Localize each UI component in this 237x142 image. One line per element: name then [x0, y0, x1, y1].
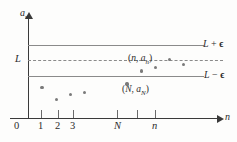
x-tick-label-N: N: [114, 121, 121, 132]
data-point: [140, 69, 143, 72]
lower-epsilon-label: L − ϵ: [204, 70, 224, 80]
y-axis-label: an: [20, 8, 29, 21]
x-tick-label-1: 1: [38, 121, 43, 132]
x-tick-mid: [137, 110, 138, 118]
limit-line: [28, 60, 223, 61]
x-tick-2: [58, 110, 59, 118]
y-axis: [28, 18, 29, 119]
limit-label: L: [15, 54, 21, 65]
x-tick-N: [117, 110, 118, 118]
data-point: [40, 86, 43, 89]
data-point: [55, 98, 58, 101]
y-axis-label-subscript: n: [25, 13, 29, 21]
threshold-point-annotation: (N, aN): [122, 85, 149, 97]
x-tick-3: [73, 110, 74, 118]
x-tick-label-3: 3: [70, 121, 75, 132]
lower-epsilon-line: [28, 76, 204, 77]
convergence-figure: an n L L + ϵ L − ϵ (n, an) (N, aN) 0 1 2…: [0, 0, 237, 142]
x-tick-n: [155, 110, 156, 118]
x-tick-label-2: 2: [55, 121, 60, 132]
upper-epsilon-label-op: +: [209, 38, 220, 49]
upper-epsilon-label-symbol: ϵ: [219, 38, 223, 49]
upper-epsilon-label: L + ϵ: [203, 39, 223, 49]
upper-epsilon-line: [28, 45, 204, 46]
threshold-point-close: ): [146, 84, 149, 94]
x-tick-label-n: n: [152, 121, 157, 132]
x-tick-label-0: 0: [14, 121, 19, 132]
generic-point-close: ): [149, 53, 152, 63]
data-point: [83, 91, 86, 94]
x-axis-label: n: [225, 112, 230, 122]
x-tick-1: [41, 110, 42, 118]
generic-point-annotation: (n, an): [128, 54, 152, 66]
data-point: [69, 93, 72, 96]
lower-epsilon-label-op: −: [210, 69, 221, 80]
data-point: [154, 66, 157, 69]
data-point: [182, 63, 185, 66]
x-axis-arrow-icon: [217, 115, 224, 123]
lower-epsilon-label-symbol: ϵ: [220, 69, 224, 80]
data-point: [125, 82, 128, 85]
